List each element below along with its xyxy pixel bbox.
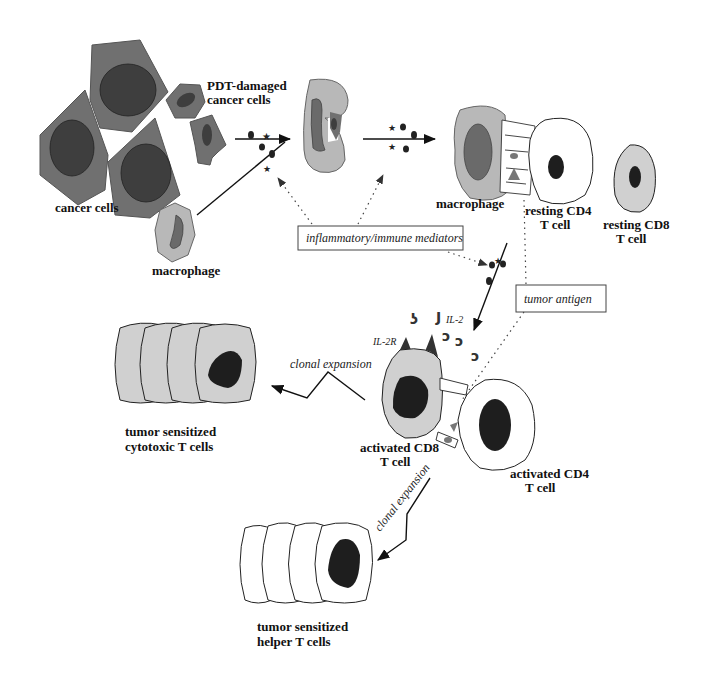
svg-text:J: J bbox=[435, 309, 441, 325]
resting-cd4-t-cell bbox=[529, 118, 593, 204]
helper-t-cells-stack bbox=[240, 523, 373, 603]
svg-text:ɔ: ɔ bbox=[471, 348, 479, 364]
label-cytotoxic-1: tumor sensitized bbox=[125, 424, 217, 439]
label-cytotoxic-2: cytotoxic T cells bbox=[125, 439, 213, 454]
svg-text:★: ★ bbox=[388, 142, 396, 152]
label-activated-cd8-1: activated CD8 bbox=[360, 440, 440, 455]
svg-text:★: ★ bbox=[262, 131, 271, 142]
dotted-link-mediators-1 bbox=[278, 178, 312, 224]
label-tumor-antigen: tumor antigen bbox=[524, 292, 592, 306]
dotted-link-mediators-2 bbox=[358, 175, 383, 224]
label-il2: IL-2 bbox=[445, 314, 463, 325]
label-resting-cd8-2: T cell bbox=[616, 231, 647, 246]
cancer-cell-nucleus bbox=[121, 144, 171, 202]
svg-text:★: ★ bbox=[388, 123, 396, 133]
label-resting-cd4-2: T cell bbox=[540, 217, 571, 232]
label-resting-cd8-1: resting CD8 bbox=[603, 217, 670, 232]
activated-cd4-t-cell bbox=[458, 379, 535, 470]
dotted-link-mediators-3 bbox=[448, 252, 487, 265]
clonal-expansion-arrow-1 bbox=[272, 372, 365, 400]
cytotoxic-t-cells-stack bbox=[115, 323, 256, 403]
label-mediators: inflammatory/immune mediators bbox=[306, 231, 463, 245]
resting-cd8-t-cell bbox=[614, 145, 655, 212]
label-clonal-expansion-2: clonal expansion bbox=[371, 461, 432, 534]
activated-cd8-t-cell bbox=[382, 349, 443, 438]
label-macrophage-2: macrophage bbox=[436, 196, 505, 211]
label-macrophage-1: macrophage bbox=[152, 263, 221, 278]
pdt-damaged-nucleus bbox=[202, 124, 212, 146]
label-clonal-expansion-1: clonal expansion bbox=[290, 357, 372, 371]
cancer-cell-nucleus bbox=[100, 64, 156, 116]
mediator-molecules-2: ★ ★ bbox=[363, 123, 435, 153]
label-activated-cd4-1: activated CD4 bbox=[510, 466, 590, 481]
label-activated-cd8-2: T cell bbox=[380, 454, 411, 469]
macrophage-1 bbox=[155, 203, 195, 262]
label-resting-cd4-1: resting CD4 bbox=[525, 203, 592, 218]
svg-text:★: ★ bbox=[263, 164, 271, 174]
label-helper-2: helper T cells bbox=[257, 634, 331, 649]
label-pdt-damaged-2: cancer cells bbox=[207, 92, 271, 107]
label-cancer-cells: cancer cells bbox=[55, 200, 119, 215]
label-pdt-damaged-1: PDT-damaged bbox=[207, 78, 287, 93]
cancer-cells-group bbox=[40, 40, 226, 218]
svg-text:ɔ: ɔ bbox=[455, 333, 463, 349]
cancer-cell-nucleus bbox=[50, 120, 94, 176]
macrophage-engulfing bbox=[304, 79, 348, 172]
label-activated-cd4-2: T cell bbox=[525, 480, 556, 495]
svg-text:ɔ: ɔ bbox=[442, 328, 450, 344]
activation-arrow bbox=[474, 243, 507, 330]
svg-text:ʖ: ʖ bbox=[410, 311, 418, 327]
label-il2r: IL-2R bbox=[372, 336, 396, 347]
label-helper-1: tumor sensitized bbox=[257, 619, 349, 634]
immune-response-diagram: cancer cells PDT-damaged cancer cells ma… bbox=[0, 0, 703, 683]
